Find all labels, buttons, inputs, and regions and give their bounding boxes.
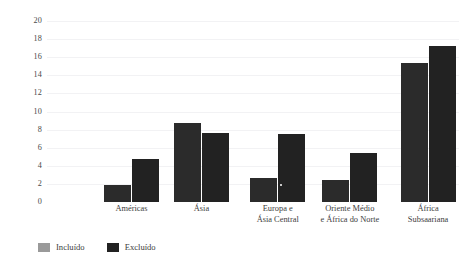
legend-item[interactable]: Incluído	[38, 243, 85, 252]
y-axis: 02468101214161820	[0, 21, 42, 202]
bar-excluded	[429, 46, 456, 202]
bar-included	[322, 180, 349, 202]
legend-swatch-icon	[107, 243, 119, 252]
bar-chart: 02468101214161820 AméricasÁsiaEuropa eÁs…	[0, 0, 476, 267]
bar-excluded	[278, 134, 305, 202]
bar-group	[174, 21, 229, 202]
y-tick-label: 6	[8, 144, 42, 152]
gridline-0	[47, 202, 459, 203]
bar-included	[174, 123, 201, 202]
bar-excluded	[202, 133, 229, 202]
bar-excluded	[350, 153, 377, 202]
bar-excluded	[132, 159, 159, 202]
legend-item[interactable]: Excluído	[107, 243, 156, 252]
y-tick-label: 4	[8, 162, 42, 170]
y-tick-label: 12	[8, 89, 42, 97]
y-tick-label: 20	[8, 17, 42, 25]
y-tick-label: 16	[8, 53, 42, 61]
bar-group	[104, 21, 159, 202]
plot-area	[47, 21, 459, 202]
bar-included	[401, 63, 428, 202]
legend-label: Incluído	[56, 243, 85, 252]
bar-group	[250, 21, 305, 202]
bar-included	[104, 185, 131, 202]
x-tick-label-line: África	[368, 204, 476, 215]
y-tick-label: 8	[8, 126, 42, 134]
bar-group	[322, 21, 377, 202]
x-axis: AméricasÁsiaEuropa eÁsia CentralOriente …	[47, 204, 459, 234]
y-tick-label: 0	[8, 198, 42, 206]
y-tick-label: 18	[8, 35, 42, 43]
x-tick-label: ÁfricaSubsaariana	[368, 204, 476, 225]
y-tick-label: 10	[8, 108, 42, 116]
x-tick-label-line: Subsaariana	[368, 215, 476, 226]
bar-included	[250, 178, 277, 202]
y-tick-label: 14	[8, 71, 42, 79]
chart-legend: IncluídoExcluído	[38, 243, 156, 252]
y-tick-label: 2	[8, 180, 42, 188]
legend-label: Excluído	[125, 243, 156, 252]
legend-swatch-icon	[38, 243, 50, 252]
bar-group	[401, 21, 456, 202]
